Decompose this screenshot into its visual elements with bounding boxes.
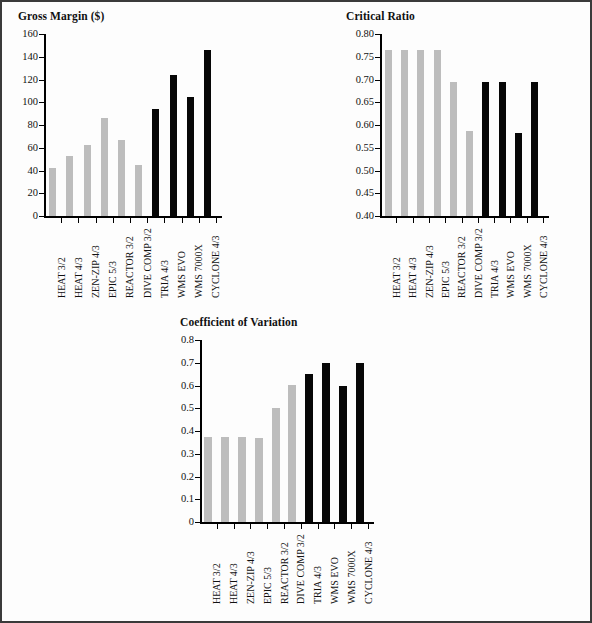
y-axis-tick-label: 0.50 [346, 166, 374, 177]
y-axis-tick [39, 125, 44, 126]
y-axis-tick-label: 80 [10, 120, 38, 131]
bar-gross-margin-9 [204, 50, 211, 216]
y-axis-tick [375, 216, 380, 217]
bar-critical-ratio-4 [450, 82, 457, 216]
y-axis-tick-label: 0.2 [166, 472, 194, 483]
bar-critical-ratio-5 [466, 131, 473, 216]
y-axis-tick-label: 0.8 [166, 335, 194, 346]
bar-critical-ratio-9 [531, 82, 538, 216]
bar-coefficient-of-variation-2 [238, 437, 246, 522]
y-axis-tick-label: 0.75 [346, 52, 374, 63]
bar-coefficient-of-variation-1 [221, 437, 229, 522]
x-axis-category-label: ZEN-ZIP 4/3 [246, 528, 256, 604]
y-axis-tick-label: 0.60 [346, 120, 374, 131]
x-axis-category-label: DIVE COMP 3/2 [474, 222, 484, 298]
y-axis-tick [375, 34, 380, 35]
bar-coefficient-of-variation-6 [305, 374, 313, 522]
y-axis-tick [195, 340, 200, 341]
y-axis-tick [39, 216, 44, 217]
bar-gross-margin-4 [118, 140, 125, 216]
x-axis-category-label: WMS 7000X [347, 528, 357, 604]
x-axis-category-label: EPIC 5/3 [441, 222, 451, 298]
chart-title-critical-ratio: Critical Ratio [346, 10, 415, 22]
bar-gross-margin-8 [187, 97, 194, 216]
bar-coefficient-of-variation-0 [204, 437, 212, 522]
x-axis-category-label: WMS 7000X [523, 222, 533, 298]
x-axis-line [200, 522, 374, 524]
y-axis-tick [39, 80, 44, 81]
y-axis-tick [375, 125, 380, 126]
y-axis-tick-label: 40 [10, 166, 38, 177]
bar-gross-margin-2 [84, 145, 91, 216]
y-axis-tick-label: 0.6 [166, 381, 194, 392]
bar-gross-margin-3 [101, 118, 108, 216]
y-axis-tick [39, 148, 44, 149]
bar-critical-ratio-6 [482, 82, 489, 216]
x-axis-category-label: HEAT 3/2 [392, 222, 402, 298]
bar-gross-margin-0 [49, 168, 56, 216]
plot-area-gross-margin: 020406080100120140160HEAT 3/2HEAT 4/3ZEN… [10, 26, 300, 308]
y-axis-tick [195, 431, 200, 432]
chart-panel-coefficient-of-variation: Coefficient of Variation 00.10.20.30.40.… [162, 314, 437, 614]
x-axis-category-label: WMS EVO [330, 528, 340, 604]
bar-critical-ratio-3 [434, 50, 441, 216]
y-axis-tick-label: 0 [10, 211, 38, 222]
y-axis-line [44, 34, 46, 216]
y-axis-tick [39, 102, 44, 103]
x-axis-category-label: ZEN-ZIP 4/3 [91, 222, 101, 298]
y-axis-tick-label: 0.80 [346, 29, 374, 40]
y-axis-tick [375, 102, 380, 103]
y-axis-tick [195, 454, 200, 455]
y-axis-tick [195, 477, 200, 478]
bar-coefficient-of-variation-3 [255, 438, 263, 522]
y-axis-tick-label: 20 [10, 188, 38, 199]
x-axis-category-label: EPIC 5/3 [108, 222, 118, 298]
plot-area-coefficient-of-variation: 00.10.20.30.40.50.60.70.8HEAT 3/2HEAT 4/… [162, 332, 437, 614]
bar-critical-ratio-1 [401, 50, 408, 216]
x-axis-category-label: TRIA 4/3 [160, 222, 170, 298]
plot-area-critical-ratio: 0.400.450.500.550.600.650.700.750.80HEAT… [332, 26, 587, 308]
y-axis-tick-label: 60 [10, 143, 38, 154]
y-axis-tick-label: 0.1 [166, 494, 194, 505]
x-axis-category-label: HEAT 4/3 [74, 222, 84, 298]
bar-coefficient-of-variation-8 [339, 386, 347, 522]
y-axis-tick [195, 522, 200, 523]
x-axis-category-label: WMS EVO [506, 222, 516, 298]
x-axis-category-label: HEAT 4/3 [229, 528, 239, 604]
x-axis-category-label: WMS EVO [177, 222, 187, 298]
y-axis-tick-label: 0.40 [346, 211, 374, 222]
y-axis-tick [39, 193, 44, 194]
figure-page: Gross Margin ($) 020406080100120140160HE… [0, 0, 592, 623]
x-axis-line [380, 216, 549, 218]
y-axis-tick [195, 499, 200, 500]
bar-coefficient-of-variation-9 [356, 363, 364, 522]
chart-panel-critical-ratio: Critical Ratio 0.400.450.500.550.600.650… [332, 8, 587, 308]
bar-critical-ratio-0 [385, 50, 392, 216]
y-axis-tick [375, 171, 380, 172]
chart-title-gross-margin: Gross Margin ($) [18, 10, 104, 22]
y-axis-tick-label: 140 [10, 52, 38, 63]
bar-gross-margin-6 [152, 109, 159, 216]
y-axis-tick-label: 0.70 [346, 75, 374, 86]
y-axis-tick-label: 120 [10, 75, 38, 86]
bar-critical-ratio-7 [499, 82, 506, 216]
x-axis-category-label: ZEN-ZIP 4/3 [425, 222, 435, 298]
bar-gross-margin-7 [170, 75, 177, 216]
x-axis-category-label: REACTOR 3/2 [280, 528, 290, 604]
y-axis-tick [375, 193, 380, 194]
y-axis-tick-label: 0.3 [166, 449, 194, 460]
x-axis-category-label: REACTOR 3/2 [457, 222, 467, 298]
y-axis-tick-label: 0.65 [346, 97, 374, 108]
x-axis-category-label: CYCLONE 4/3 [211, 222, 221, 298]
y-axis-tick [39, 34, 44, 35]
y-axis-line [380, 34, 382, 216]
y-axis-tick-label: 100 [10, 97, 38, 108]
y-axis-tick-label: 0.5 [166, 403, 194, 414]
chart-panel-gross-margin: Gross Margin ($) 020406080100120140160HE… [10, 8, 300, 308]
x-axis-category-label: HEAT 3/2 [57, 222, 67, 298]
bar-critical-ratio-8 [515, 133, 522, 216]
y-axis-tick-label: 0.4 [166, 426, 194, 437]
x-axis-category-label: CYCLONE 4/3 [539, 222, 549, 298]
y-axis-tick-label: 0.55 [346, 143, 374, 154]
x-axis-category-label: TRIA 4/3 [490, 222, 500, 298]
